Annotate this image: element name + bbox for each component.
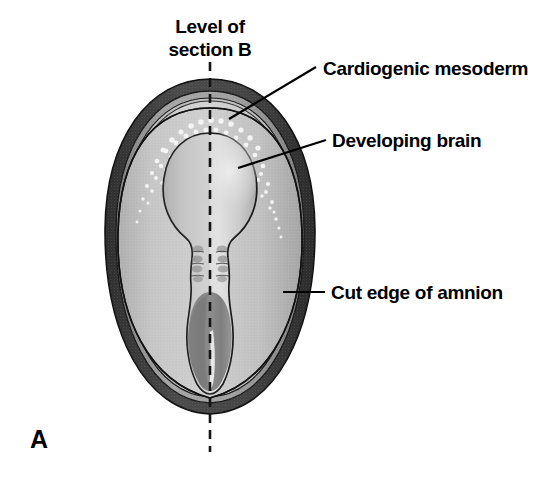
section-b-title-line1: Level of [175, 16, 245, 37]
label-cut-edge-of-amnion: Cut edge of amnion [331, 282, 503, 303]
section-b-title-line2: section B [169, 39, 252, 60]
label-developing-brain: Developing brain [332, 130, 481, 151]
panel-letter-a: A [30, 425, 48, 453]
label-cardiogenic-mesoderm: Cardiogenic mesoderm [323, 58, 528, 79]
embryo-diagram-svg: Level of section B Cardiogenic mesoderm … [0, 0, 550, 483]
embryo-figure-panel-a: Level of section B Cardiogenic mesoderm … [0, 0, 550, 483]
